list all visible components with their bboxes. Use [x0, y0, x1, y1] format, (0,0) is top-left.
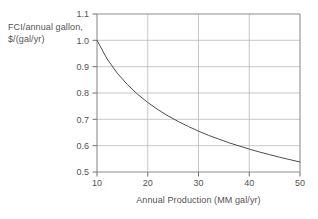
x-tick-labels: 10 20 30 40 50	[92, 178, 305, 188]
y-tick-label-0.5: 0.5	[76, 167, 89, 177]
y-tick-label-0.8: 0.8	[76, 88, 89, 98]
y-tick-label-1.0: 1.0	[76, 36, 89, 46]
x-tick-label-30: 30	[193, 178, 203, 188]
y-tick-label-1.1: 1.1	[76, 9, 89, 19]
y-tick-label-0.9: 0.9	[76, 62, 89, 72]
y-tick-label-0.7: 0.7	[76, 115, 89, 125]
x-tick-label-50: 50	[295, 178, 305, 188]
y-tick-label-0.6: 0.6	[76, 141, 89, 151]
x-tick-label-20: 20	[143, 178, 153, 188]
x-tick-label-40: 40	[244, 178, 254, 188]
x-tick-marks	[97, 172, 300, 177]
y-tick-labels: 1.1 1.0 0.9 0.8 0.7 0.6 0.5	[76, 9, 89, 177]
x-axis-label: Annual Production (MM gal/yr)	[97, 195, 300, 205]
x-tick-label-10: 10	[92, 178, 102, 188]
plot-area: 1.1 1.0 0.9 0.8 0.7 0.6 0.5 10 20 30 40 …	[0, 0, 318, 219]
chart-figure: FCI/annual gallon, $/(gal/yr)	[0, 0, 318, 219]
y-tick-marks	[93, 14, 98, 172]
